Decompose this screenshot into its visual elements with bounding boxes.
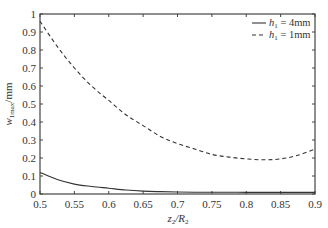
x-tick-label: 0.75 [202,198,222,210]
y-tick-label: 0.4 [22,116,36,128]
x-tick-label: 0.85 [271,198,291,210]
y-axis-label: w1max/mm [2,82,16,126]
y-tick-label: 0.8 [22,44,36,56]
line-chart: 0.50.550.60.650.70.750.80.850.9 00.10.20… [0,0,328,228]
x-tick-label: 0.6 [102,198,116,210]
series-group [40,21,315,192]
x-tick-label: 0.55 [65,198,85,210]
y-tick-label: 0.7 [22,62,36,74]
y-axis-title: w1max/mm [2,82,16,126]
y-tick-label: 0.9 [22,26,36,38]
y-tick-label: 0.3 [22,134,36,146]
x-axis-title: z2/R2 [166,212,189,226]
x-tick-label: 0.9 [308,198,322,210]
y-tick-label: 0 [31,188,37,200]
y-tick-label: 1 [31,8,37,20]
y-tick-label: 0.5 [22,98,36,110]
x-tick-label: 0.65 [134,198,154,210]
x-tick-label: 0.7 [171,198,185,210]
legend-label: h1 = 1mm [269,29,311,42]
legend: h1 = 4mmh1 = 1mm [252,17,311,42]
y-tick-label: 0.6 [22,80,36,92]
series-line-h1-4mm [40,172,315,192]
x-axis-ticks: 0.50.550.60.650.70.750.80.850.9 [33,14,322,210]
x-axis-label: z2/R2 [166,212,189,226]
y-tick-label: 0.2 [22,152,36,164]
y-tick-label: 0.1 [22,170,36,182]
x-tick-label: 0.8 [239,198,253,210]
